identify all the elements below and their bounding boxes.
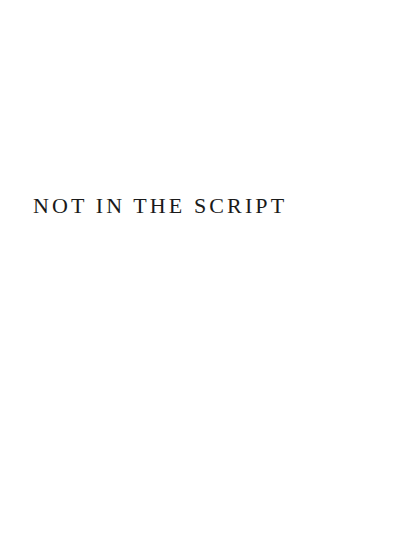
- page-title: NOT IN THE SCRIPT: [33, 192, 287, 220]
- book-title-page: NOT IN THE SCRIPT: [0, 0, 400, 556]
